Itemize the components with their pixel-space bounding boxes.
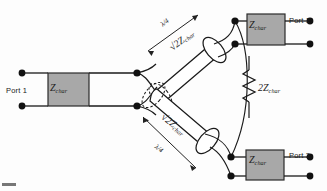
bottom-output-inner-node-dot bbox=[227, 153, 234, 160]
isolation-resistor-label: 2Zchar bbox=[258, 82, 280, 94]
bottom-output-lower-terminal-dot bbox=[307, 173, 314, 180]
bottom-length-arrowhead-end bbox=[190, 165, 196, 171]
schematic-drawing bbox=[0, 0, 327, 191]
junction-top-dot bbox=[133, 69, 140, 76]
isolation-resistor-symbol: 2Z bbox=[258, 82, 269, 93]
top-length-arrowhead-end bbox=[192, 15, 198, 21]
top-output-lower-terminal-dot bbox=[307, 41, 314, 48]
top-output-inner-node-dot-2 bbox=[231, 40, 238, 47]
input-top-terminal-dot bbox=[19, 70, 26, 77]
input-impedance-subscript: char bbox=[56, 87, 68, 94]
bottom-output-impedance-subscript: char bbox=[255, 159, 267, 166]
bottom-line-to-outer-node-arc bbox=[210, 147, 231, 176]
top-output-inner-node-dot bbox=[231, 17, 238, 24]
input-port-label: Port 1 bbox=[6, 86, 27, 95]
top-output-port-label: Port 1 bbox=[289, 16, 310, 25]
junction-group bbox=[133, 64, 157, 115]
input-port-group bbox=[19, 70, 137, 110]
input-impedance-label: Zchar bbox=[50, 82, 67, 94]
wilkinson-power-divider-figure: Port 1 Port 1 Port 3 Zchar Zchar Zchar 2… bbox=[0, 0, 327, 191]
bottom-output-impedance-label: Zchar bbox=[249, 154, 266, 166]
top-output-impedance-subscript: char bbox=[255, 24, 267, 31]
top-output-impedance-label: Zchar bbox=[249, 19, 266, 31]
top-line-to-upper-node-arc bbox=[214, 21, 235, 44]
junction-bottom-dot bbox=[133, 102, 140, 109]
scan-artifact-mark bbox=[2, 183, 16, 186]
isolation-resistor-subscript: char bbox=[269, 87, 281, 94]
bottom-output-port-label: Port 3 bbox=[289, 151, 310, 160]
bottom-output-inner-node-dot-2 bbox=[227, 172, 234, 179]
input-bottom-terminal-dot bbox=[19, 103, 26, 110]
top-length-arrowhead-start bbox=[148, 51, 154, 56]
resistor-zigzag bbox=[243, 70, 255, 102]
